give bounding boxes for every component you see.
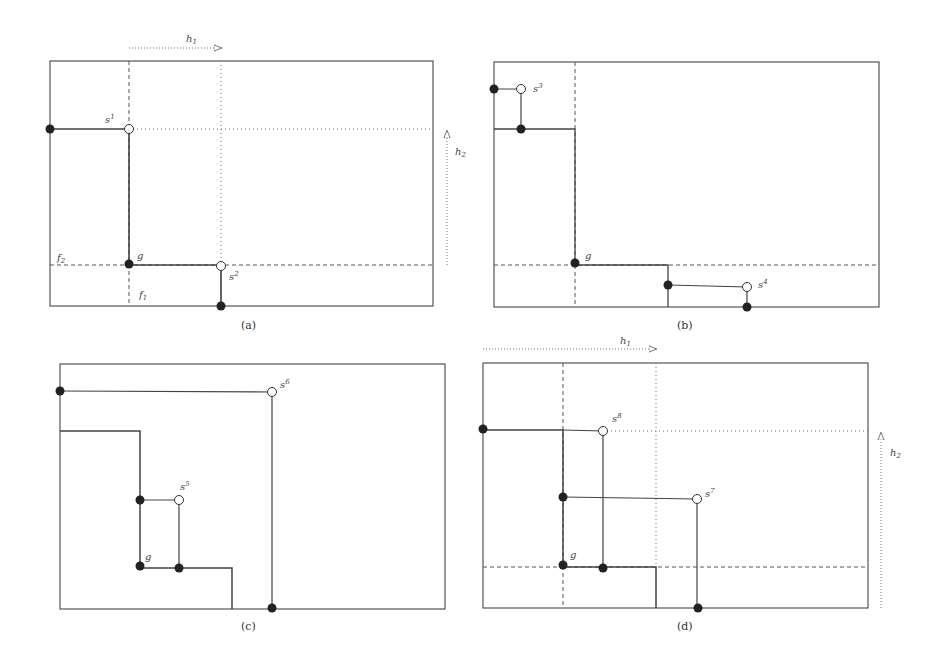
filled-node — [479, 425, 488, 434]
s3-node — [517, 85, 526, 94]
s2-label: s2 — [229, 270, 239, 282]
filled-node — [490, 85, 499, 94]
caption-b: (b) — [677, 319, 693, 332]
s4-path — [668, 285, 747, 307]
panel-c: s6 s5 g (c) — [56, 364, 446, 633]
filled-node — [46, 125, 55, 134]
filled-node — [268, 604, 277, 613]
filled-node — [559, 493, 568, 502]
h2-label: h2 — [455, 146, 466, 159]
panel-c-frame — [60, 364, 445, 609]
boundary-line — [60, 431, 232, 609]
caption-a: (a) — [241, 319, 256, 332]
h1-label: h1 — [620, 335, 631, 348]
h2-label: h2 — [890, 447, 901, 460]
g-label: g — [137, 250, 143, 261]
s6-node — [268, 388, 277, 397]
s5-node — [175, 496, 184, 505]
figure-canvas: h1 h2 s1 g s2 f2 f1 (a) s3 g s4 (b) — [0, 0, 942, 656]
s8-label: s8 — [612, 412, 622, 424]
s5-label: s5 — [180, 480, 190, 492]
s3-label: s3 — [533, 82, 543, 94]
s4-label: s4 — [758, 278, 768, 290]
filled-node — [517, 125, 526, 134]
filled-node — [217, 302, 226, 311]
s1-label: s1 — [105, 113, 115, 125]
f1-label: f1 — [138, 289, 147, 302]
s8-node — [599, 427, 608, 436]
s7-path — [563, 497, 697, 608]
g-label: g — [145, 551, 151, 562]
s2-node — [217, 262, 226, 271]
filled-node — [136, 496, 145, 505]
filled-node — [743, 303, 752, 312]
panel-d-frame — [483, 363, 868, 608]
panel-d: h1 h2 s8 s7 g (d) — [479, 335, 902, 633]
h1-label: h1 — [186, 33, 197, 46]
filled-node — [175, 564, 184, 573]
panel-a: h1 h2 s1 g s2 f2 f1 (a) — [46, 33, 467, 332]
path-line — [50, 129, 221, 306]
g-label: g — [585, 250, 591, 261]
filled-node — [694, 604, 703, 613]
g-node — [136, 562, 145, 571]
s3-path — [494, 89, 521, 129]
s7-node — [693, 495, 702, 504]
s7-label: s7 — [705, 487, 715, 499]
g-node — [571, 259, 580, 268]
s6-label: s6 — [280, 378, 290, 390]
caption-c: (c) — [241, 620, 256, 633]
f2-label: f2 — [56, 252, 66, 265]
g-node — [559, 561, 568, 570]
panel-a-frame — [50, 61, 433, 306]
filled-node — [56, 387, 65, 396]
panel-b: s3 g s4 (b) — [490, 62, 880, 332]
g-node — [125, 260, 134, 269]
s4-node — [743, 283, 752, 292]
s1-node — [125, 125, 134, 134]
g-label: g — [570, 549, 576, 560]
filled-node — [599, 564, 608, 573]
s8-path — [563, 430, 603, 568]
filled-node — [664, 281, 673, 290]
panel-b-frame — [494, 62, 879, 307]
caption-d: (d) — [677, 620, 693, 633]
boundary-line — [494, 129, 668, 307]
boundary-line — [483, 430, 656, 608]
